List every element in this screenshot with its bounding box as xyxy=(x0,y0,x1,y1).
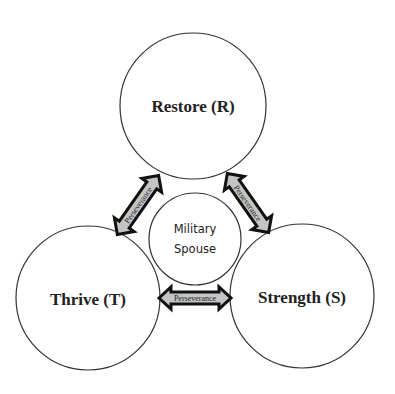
node-thrive: Thrive (T) xyxy=(16,226,160,370)
thrive-label: Thrive (T) xyxy=(50,290,126,309)
node-strength: Strength (S) xyxy=(230,224,374,368)
node-military-spouse: Military Spouse xyxy=(149,193,241,285)
perseverance-label: Perseverance xyxy=(174,294,217,303)
military-spouse-label-line2: Spouse xyxy=(174,242,216,256)
strength-label: Strength (S) xyxy=(258,288,346,307)
connector-thrive-strength: Perseverance xyxy=(159,287,231,309)
node-restore: Restore (R) xyxy=(120,33,266,179)
military-spouse-label-line1: Military xyxy=(174,222,217,236)
military-spouse-circle xyxy=(149,193,241,285)
perseverance-label: Perseverance xyxy=(232,183,264,223)
restore-label: Restore (R) xyxy=(151,97,234,116)
resilience-diagram: Restore (R) Thrive (T) Strength (S) Mili… xyxy=(0,0,395,394)
perseverance-label: Perseverance xyxy=(123,185,155,225)
